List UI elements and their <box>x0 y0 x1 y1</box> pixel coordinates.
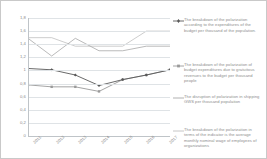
gridline <box>28 18 170 19</box>
y-tick-label: 1,2 <box>20 55 26 59</box>
x-tick-label: 2011 <box>32 135 42 145</box>
legend-entry-3[interactable]: The breakdown of the polarization in ter… <box>173 127 263 149</box>
legend-label: The breakdown of the polarization accord… <box>184 17 263 33</box>
y-tick-label: 1,6 <box>20 29 26 33</box>
gridline <box>28 97 170 98</box>
y-tick-label: 0,2 <box>20 121 26 125</box>
legend-marker-icon <box>173 63 184 69</box>
legend-label: The disruption of polarization in shippi… <box>184 94 263 105</box>
legend-marker-icon <box>173 18 184 24</box>
gridline <box>28 110 170 111</box>
x-tick-label: 2013 <box>77 134 88 144</box>
legend-entry-1[interactable]: The breakdown of the polarization of bud… <box>173 62 263 84</box>
legend-entry-0[interactable]: The breakdown of the polarization accord… <box>173 17 263 33</box>
x-tick-label: 2015 <box>123 134 134 144</box>
gridline <box>28 31 170 32</box>
x-axis-labels: 2011 2012 2013 2014 2015 2016 2017 <box>28 137 170 159</box>
legend-marker-icon <box>173 128 184 134</box>
series-line <box>28 38 170 56</box>
chart-container: 1,8 1,6 1,4 1,2 1 0,8 0,6 0,4 0,2 0 2011… <box>0 0 267 159</box>
y-tick-label: 0,6 <box>20 95 26 99</box>
legend-label: The breakdown of the polarization in ter… <box>184 127 263 149</box>
gridline <box>28 44 170 45</box>
gridline <box>28 70 170 71</box>
series-plot <box>28 18 170 136</box>
series-marker <box>98 90 100 92</box>
x-tick-label: 2016 <box>145 134 156 144</box>
gridline <box>28 57 170 58</box>
legend-entry-2[interactable]: The disruption of polarization in shippi… <box>173 94 263 105</box>
x-tick-label: 2014 <box>100 134 111 144</box>
series-marker <box>74 86 76 88</box>
y-axis-labels: 1,8 1,6 1,4 1,2 1 0,8 0,6 0,4 0,2 0 <box>1 1 26 159</box>
y-tick-label: 0 <box>24 134 26 138</box>
y-tick-label: 1 <box>24 68 26 72</box>
chart-legend: The breakdown of the polarization accord… <box>173 17 266 155</box>
legend-label: The breakdown of the polarization of bud… <box>184 62 263 84</box>
series-marker <box>74 74 77 77</box>
legend-marker-icon <box>173 95 184 101</box>
series-line <box>28 70 170 92</box>
y-tick-label: 0,8 <box>20 82 26 86</box>
plot-area <box>28 18 170 136</box>
x-tick-label: 2012 <box>55 134 66 144</box>
series-marker <box>50 86 52 88</box>
gridline <box>28 123 170 124</box>
gridline <box>28 84 170 85</box>
y-tick-label: 0,4 <box>20 108 26 112</box>
y-tick-label: 1,8 <box>20 16 26 20</box>
y-axis-line <box>28 18 29 137</box>
y-tick-label: 1,4 <box>20 42 26 46</box>
